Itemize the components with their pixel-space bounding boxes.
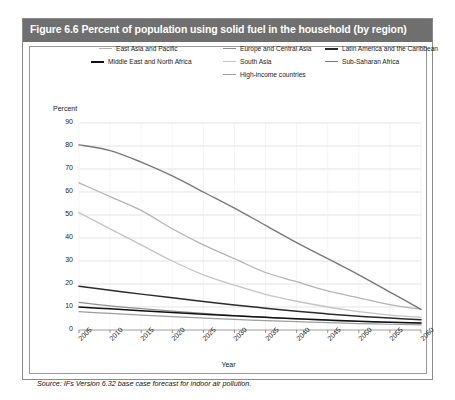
legend-item-east-asia-and-pacific[interactable]: East Asia and Pacific [99,45,178,52]
legend-item-label: South Asia [240,58,272,65]
legend-item-label: Middle East and North Africa [108,58,192,65]
legend-item-middle-east-and-north-africa[interactable]: Middle East and North Africa [91,58,192,65]
y-axis-tick-label: 80 [53,141,73,148]
legend-swatch-icon [325,48,338,50]
legend-swatch-icon [223,48,236,49]
legend-item-latin-america-and-the-caribbean[interactable]: Latin America and the Caribbean [325,45,438,52]
legend-item-sub-saharan-africa[interactable]: Sub-Saharan Africa [325,58,399,65]
y-axis-tick-label: 30 [53,256,73,263]
legend-swatch-icon [91,61,104,63]
y-axis-title: Percent [53,105,77,112]
y-axis-tick-label: 50 [53,210,73,217]
y-axis-tick-label: 20 [53,279,73,286]
figure-title: Figure 6.6 Percent of population using s… [23,19,432,42]
y-axis-tick-label: 0 [53,325,73,332]
legend-swatch-icon [223,74,236,75]
legend-item-label: Europe and Central Asia [240,45,311,52]
y-axis-tick-label: 70 [53,164,73,171]
x-axis-title: Year [23,361,434,368]
legend-item-label: Sub-Saharan Africa [342,58,399,65]
y-axis-tick-label: 40 [53,233,73,240]
legend-item-label: Latin America and the Caribbean [342,45,438,52]
chart-legend: East Asia and PacificEurope and Central … [53,45,433,89]
y-axis-tick-label: 90 [53,118,73,125]
legend-item-label: High-income countries [240,71,306,78]
y-axis-tick-label: 60 [53,187,73,194]
figure-container: Figure 6.6 Percent of population using s… [22,18,433,380]
legend-item-high-income-countries[interactable]: High-income countries [223,71,306,78]
source-note: Source: IFs Version 6.32 base case forec… [37,379,251,388]
legend-swatch-icon [223,61,236,62]
legend-item-south-asia[interactable]: South Asia [223,58,272,65]
legend-swatch-icon [99,48,112,49]
legend-item-europe-and-central-asia[interactable]: Europe and Central Asia [223,45,311,52]
legend-item-label: East Asia and Pacific [116,45,178,52]
y-axis-tick-label: 10 [53,302,73,309]
legend-swatch-icon [325,61,338,62]
